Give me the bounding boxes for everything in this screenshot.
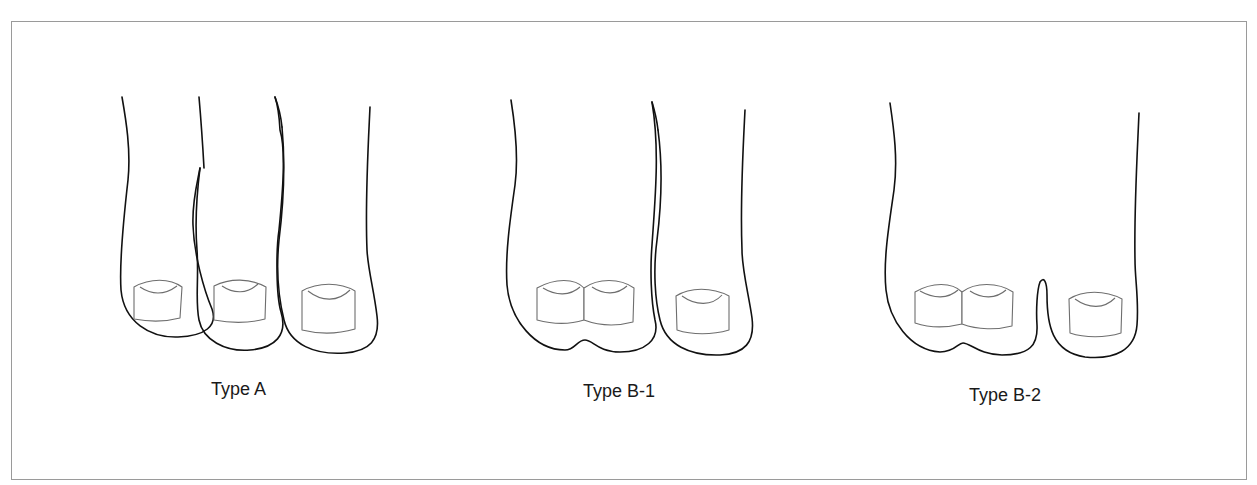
nail-b2-left: [915, 285, 962, 327]
caption-type-b2: Type B-2: [969, 386, 1041, 404]
caption-type-a: Type A: [211, 380, 266, 398]
toe-outline-a1-edge: [199, 97, 204, 168]
nail-a3: [302, 284, 355, 333]
panel-type-b2: [885, 103, 1139, 358]
caption-type-b1: Type B-1: [583, 382, 655, 400]
nail-b1-left: [537, 281, 584, 324]
panel-type-b1: [507, 100, 753, 355]
nail-a1: [134, 280, 182, 321]
toe-diagram: [0, 0, 1257, 485]
panel-type-a: [121, 97, 378, 353]
